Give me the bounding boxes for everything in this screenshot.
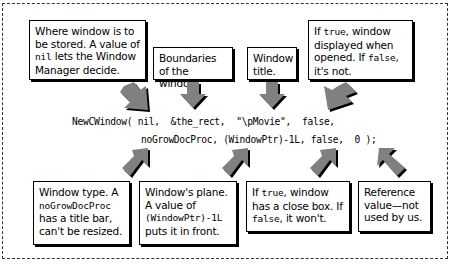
code-term: noGrowDocProc [39, 200, 111, 211]
callout-visible: If true, window displayed when opened. I… [308, 20, 413, 80]
code-term: false [368, 52, 396, 63]
callout-bounds: Boundaries of the window. [153, 47, 233, 80]
arrow-down-icon [180, 82, 210, 112]
code-term: nil [35, 51, 52, 62]
callout-refcon: Reference value—not used by us. [358, 181, 431, 232]
callout-plane: Window's plane. A value of (WindowPtr)-1… [139, 181, 237, 245]
code-term: (WindowPtr)-1L [145, 212, 222, 223]
callout-title: Window title. [247, 47, 297, 80]
arrow-down-right-icon [118, 82, 154, 118]
callout-text: If [252, 186, 262, 198]
callout-text: , it won't. [280, 212, 327, 224]
callout-text: If [314, 25, 324, 37]
code-term: true [324, 26, 346, 37]
arrow-up-left-icon [375, 146, 411, 182]
callout-text: Reference value—not used by us. [364, 186, 422, 223]
callout-text: Window's plane. A value of [145, 186, 228, 211]
code-term: true [262, 187, 284, 198]
arrow-up-right-icon [118, 146, 154, 182]
callout-storage: Where window is to be stored. A value of… [29, 20, 146, 80]
code-line-2: noGrowDocProc, (WindowPtr)-1L, false, 0 … [141, 134, 376, 145]
callout-text: Window title. [253, 52, 293, 77]
code-term: false [252, 213, 280, 224]
arrow-down-left-icon [322, 82, 358, 118]
callout-text: Window type. A [39, 186, 118, 198]
callout-text: puts it in front. [145, 225, 219, 237]
callout-type: Window type. A noGrowDocProc has a title… [33, 181, 130, 245]
arrow-up-right-icon [218, 146, 254, 182]
arrow-up-right-icon [306, 146, 342, 182]
code-line-1: NewCWindow( nil, &the_rect, "\pMovie", f… [72, 116, 335, 127]
callout-text: Where window is to be stored. A value of [35, 25, 140, 50]
arrow-down-icon [259, 82, 289, 112]
callout-text: has a title bar, can't be resized. [39, 212, 122, 237]
callout-closebox: If true, window has a close box. If fals… [246, 181, 350, 232]
